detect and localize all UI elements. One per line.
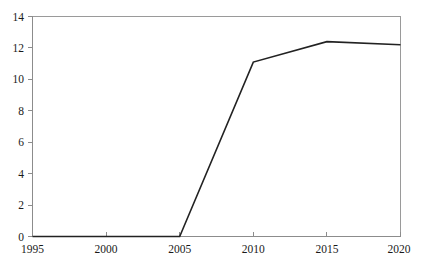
y-tick-label-8: 8 [18, 105, 24, 117]
y-tick-label-6: 6 [18, 136, 24, 148]
x-tick-label-1995: 1995 [21, 243, 44, 255]
chart-canvas: 0 2 4 6 8 10 12 14 1995 2000 [0, 0, 421, 259]
y-tick-label-0: 0 [18, 231, 24, 243]
x-tick-label-2005: 2005 [168, 243, 191, 255]
x-tick-label-2000: 2000 [95, 243, 118, 255]
chart-background [0, 0, 421, 259]
y-tick-label-12: 12 [13, 42, 25, 54]
y-tick-label-4: 4 [18, 168, 24, 180]
line-chart: 0 2 4 6 8 10 12 14 1995 2000 [0, 0, 421, 259]
y-tick-label-10: 10 [13, 73, 25, 85]
y-tick-label-2: 2 [18, 199, 24, 211]
x-tick-label-2015: 2015 [315, 243, 338, 255]
x-tick-label-2020: 2020 [388, 243, 411, 255]
y-tick-label-14: 14 [13, 11, 25, 23]
x-tick-label-2010: 2010 [242, 243, 265, 255]
